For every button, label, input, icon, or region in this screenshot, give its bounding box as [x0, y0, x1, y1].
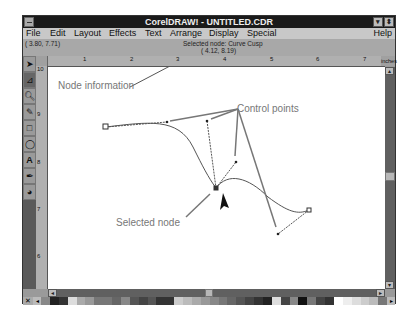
color-swatch[interactable]: [361, 297, 370, 305]
color-swatch[interactable]: [165, 297, 174, 305]
maximize-button[interactable]: ⬍: [384, 17, 394, 27]
color-swatch[interactable]: [334, 297, 343, 305]
color-swatch[interactable]: [298, 297, 307, 305]
color-swatch[interactable]: [290, 297, 299, 305]
annotation-control-points: Control points: [237, 103, 299, 114]
curve-drawing: [48, 67, 385, 289]
menu-display[interactable]: Display: [209, 28, 239, 39]
menu-layout[interactable]: Layout: [74, 28, 101, 39]
menu-edit[interactable]: Edit: [50, 28, 66, 39]
color-swatch[interactable]: [85, 297, 94, 305]
color-swatch[interactable]: [272, 297, 281, 305]
ruler-tick: 8: [37, 159, 40, 165]
no-fill-swatch[interactable]: ✕: [23, 297, 33, 305]
color-swatch[interactable]: [94, 297, 103, 305]
ruler-tick: 4: [223, 56, 226, 62]
color-swatch[interactable]: [210, 297, 219, 305]
ruler-tick: 9: [37, 111, 40, 117]
selected-node-info: Selected node: Curve Cusp: [183, 40, 263, 47]
palette-scroll-right-button[interactable]: ▸: [387, 297, 395, 305]
color-swatch[interactable]: [352, 297, 361, 305]
status-bar: ( 3.80, 7.71) Selected node: Curve Cusp …: [23, 39, 395, 56]
color-swatch[interactable]: [245, 297, 254, 305]
menu-effects[interactable]: Effects: [109, 28, 136, 39]
ellipse-tool[interactable]: ◯: [23, 136, 36, 152]
color-swatch[interactable]: [130, 297, 139, 305]
rectangle-tool[interactable]: □: [23, 120, 36, 136]
color-swatch[interactable]: [77, 297, 86, 305]
scroll-right-button[interactable]: ▸: [376, 289, 385, 297]
color-swatch[interactable]: [59, 297, 68, 305]
color-swatch[interactable]: [156, 297, 165, 305]
color-swatch[interactable]: [378, 297, 387, 305]
color-swatch[interactable]: [103, 297, 112, 305]
palette-scroll-left-button[interactable]: ◂: [33, 297, 41, 305]
color-swatch[interactable]: [236, 297, 245, 305]
ruler-tick: 10: [37, 66, 44, 72]
scroll-up-button[interactable]: ▴: [385, 67, 394, 75]
color-swatch[interactable]: [174, 297, 183, 305]
node-coordinates: ( 4.12, 8.19): [201, 47, 236, 54]
color-swatch[interactable]: [41, 297, 50, 305]
title-bar: CorelDRAW! - UNTITLED.CDR ▾ ⬍: [23, 16, 395, 28]
fill-tool[interactable]: ◕: [23, 184, 36, 200]
scroll-down-button[interactable]: ▾: [385, 281, 394, 289]
ruler-corner[interactable]: [36, 56, 48, 66]
ruler-tick: 5: [270, 56, 273, 62]
menu-arrange[interactable]: Arrange: [170, 28, 202, 39]
color-swatch[interactable]: [183, 297, 192, 305]
vertical-ruler[interactable]: 10 9 8 7 6: [36, 66, 48, 289]
color-palette[interactable]: ✕ ◂ ▸: [23, 297, 395, 305]
annotation-node-information: Node information: [58, 80, 134, 91]
menu-text[interactable]: Text: [145, 28, 162, 39]
drawing-canvas[interactable]: Node information Control points Selected…: [48, 67, 385, 289]
horizontal-scroll-thumb[interactable]: [205, 289, 213, 297]
color-swatch[interactable]: [263, 297, 272, 305]
color-swatch[interactable]: [112, 297, 121, 305]
color-swatch[interactable]: [307, 297, 316, 305]
ruler-tick: 3: [176, 56, 179, 62]
vertical-scroll-thumb[interactable]: [385, 172, 395, 181]
color-swatch[interactable]: [219, 297, 228, 305]
color-swatch[interactable]: [254, 297, 263, 305]
ruler-tick: 6: [316, 56, 319, 62]
color-swatch[interactable]: [192, 297, 201, 305]
text-tool[interactable]: A: [23, 152, 36, 168]
scroll-left-button[interactable]: ◂: [48, 289, 57, 297]
ruler-tick: 6: [37, 253, 40, 259]
window-title: CorelDRAW! - UNTITLED.CDR: [145, 17, 273, 27]
ruler-tick: 7: [37, 206, 40, 212]
zoom-tool[interactable]: 🔍︎: [23, 88, 36, 104]
color-swatch[interactable]: [139, 297, 148, 305]
ruler-units: inches: [381, 56, 395, 66]
coreldraw-window: CorelDRAW! - UNTITLED.CDR ▾ ⬍ File Edit …: [22, 15, 396, 304]
color-swatch[interactable]: [325, 297, 334, 305]
shape-tool[interactable]: ⊿: [23, 72, 36, 88]
color-swatch[interactable]: [68, 297, 77, 305]
horizontal-scrollbar[interactable]: ◂ ▸: [48, 289, 385, 297]
color-swatch[interactable]: [148, 297, 157, 305]
color-swatch[interactable]: [281, 297, 290, 305]
color-swatch[interactable]: [343, 297, 352, 305]
toolbox: ➤ ⊿ 🔍︎ ✎ □ ◯ A ✒ ◕: [23, 56, 36, 289]
ruler-tick: 1: [83, 56, 86, 62]
vertical-scrollbar[interactable]: ▴ ▾: [385, 67, 395, 289]
ruler-tick: 7: [363, 56, 366, 62]
pick-tool[interactable]: ➤: [23, 56, 36, 72]
color-swatch[interactable]: [227, 297, 236, 305]
minimize-button[interactable]: ▾: [373, 17, 383, 27]
menu-help[interactable]: Help: [373, 28, 392, 39]
pencil-tool[interactable]: ✎: [23, 104, 36, 120]
annotation-selected-node: Selected node: [116, 217, 180, 228]
menu-bar: File Edit Layout Effects Text Arrange Di…: [23, 28, 395, 39]
outline-tool[interactable]: ✒: [23, 168, 36, 184]
menu-file[interactable]: File: [26, 28, 41, 39]
color-swatch[interactable]: [201, 297, 210, 305]
color-swatch[interactable]: [316, 297, 325, 305]
color-swatch[interactable]: [50, 297, 59, 305]
color-swatch[interactable]: [121, 297, 130, 305]
horizontal-ruler[interactable]: 1 2 3 4 5 6 7: [36, 56, 385, 67]
color-swatch[interactable]: [369, 297, 378, 305]
system-menu-button[interactable]: [24, 17, 34, 27]
menu-special[interactable]: Special: [247, 28, 277, 39]
